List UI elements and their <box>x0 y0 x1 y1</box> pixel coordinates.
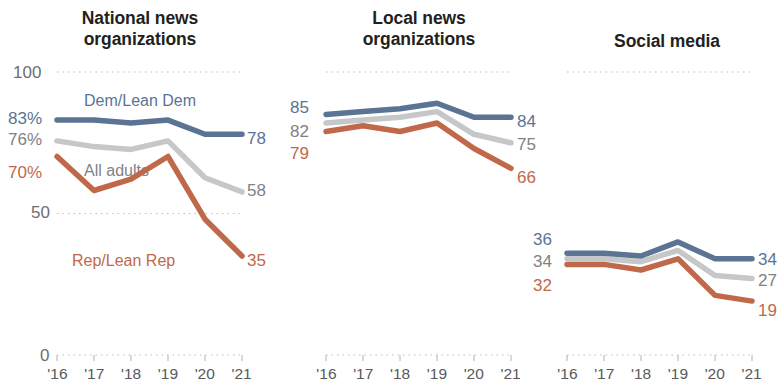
x-axis-labels-national: '16 '17 '18 '19 '20 '21 <box>39 366 260 382</box>
series-line-rep-lean-rep <box>567 259 752 301</box>
panel-social-media: Social media 36 34 32 34 27 19 <box>552 0 782 390</box>
line-chart-svg-local <box>326 60 511 360</box>
x-axis-ticks <box>567 355 752 361</box>
y-axis-label-0: 0 <box>40 347 49 364</box>
end-value-rep-social: 19 <box>758 302 777 319</box>
line-chart-svg-national <box>57 60 242 360</box>
end-value-dem-social: 34 <box>758 251 777 268</box>
x-tick-18: '18 <box>113 366 150 382</box>
start-value-rep-local: 79 <box>290 145 309 162</box>
x-tick-18: '18 <box>382 366 419 382</box>
end-value-all-national: 58 <box>247 182 266 199</box>
start-value-rep-social: 32 <box>533 277 552 294</box>
x-tick-17: '17 <box>345 366 382 382</box>
series-line-rep-lean-rep <box>57 157 242 257</box>
x-tick-16: '16 <box>308 366 345 382</box>
start-value-all-local: 82 <box>290 123 309 140</box>
end-value-all-social: 27 <box>758 272 777 289</box>
x-axis-ticks <box>326 355 511 361</box>
x-tick-19: '19 <box>659 366 696 382</box>
y-axis-label-50: 50 <box>31 204 50 221</box>
series-line-dem-lean-dem <box>57 120 242 134</box>
x-axis-labels-local: '16 '17 '18 '19 '20 '21 <box>308 366 529 382</box>
panel-title-local-news: Local news organizations <box>288 8 550 50</box>
x-tick-21: '21 <box>223 366 260 382</box>
x-axis-labels-social: '16 '17 '18 '19 '20 '21 <box>549 366 770 382</box>
x-tick-19: '19 <box>149 366 186 382</box>
plot-area-national <box>57 60 242 360</box>
start-value-all-national: 76% <box>8 131 42 148</box>
x-tick-16: '16 <box>549 366 586 382</box>
y-axis-label-100: 100 <box>13 64 41 81</box>
start-value-dem-social: 36 <box>533 231 552 248</box>
x-tick-21: '21 <box>492 366 529 382</box>
end-value-rep-national: 35 <box>247 252 266 269</box>
panel-title-social-media: Social media <box>552 31 782 52</box>
panel-local-news: Local news organizations 85 82 79 84 75 … <box>288 0 550 390</box>
x-tick-19: '19 <box>418 366 455 382</box>
x-tick-20: '20 <box>696 366 733 382</box>
start-value-rep-national: 70% <box>8 164 42 181</box>
end-value-rep-local: 66 <box>517 169 536 186</box>
x-tick-17: '17 <box>76 366 113 382</box>
x-tick-18: '18 <box>623 366 660 382</box>
x-tick-16: '16 <box>39 366 76 382</box>
x-tick-20: '20 <box>455 366 492 382</box>
series-line-rep-lean-rep <box>326 123 511 168</box>
end-value-dem-local: 84 <box>517 113 536 130</box>
x-tick-20: '20 <box>186 366 223 382</box>
start-value-dem-local: 85 <box>290 99 309 116</box>
x-tick-21: '21 <box>733 366 770 382</box>
plot-area-social <box>567 60 752 360</box>
x-tick-17: '17 <box>586 366 623 382</box>
chart-figure: National news organizations 100 50 0 83%… <box>0 0 782 390</box>
x-axis-ticks <box>57 355 242 361</box>
panel-title-national-news: National news organizations <box>0 8 280 50</box>
panel-national-news: National news organizations 100 50 0 83%… <box>0 0 280 390</box>
end-value-dem-national: 78 <box>247 130 266 147</box>
end-value-all-local: 75 <box>517 136 536 153</box>
start-value-all-social: 34 <box>533 253 552 270</box>
line-chart-svg-social <box>567 60 752 360</box>
start-value-dem-national: 83% <box>8 110 42 127</box>
plot-area-local <box>326 60 511 360</box>
